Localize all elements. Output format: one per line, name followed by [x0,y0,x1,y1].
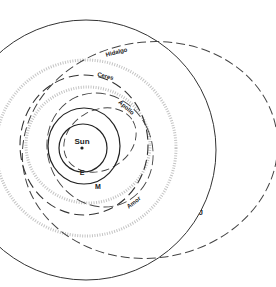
hidalgo-label: Hidalgo [105,46,128,57]
sun-icon [80,146,83,149]
jupiter-orbit [0,20,216,280]
asteroid-belt [0,60,176,236]
apollo-orbit [52,95,148,185]
orbit-canvas: Sun E M J Hidalgo Ceres Apollo Amor [0,0,276,287]
earth-label: E [80,169,85,176]
sun-label: Sun [74,137,89,146]
jupiter-label: J [199,209,203,216]
orbit-diagram: Sun E M J Hidalgo Ceres Apollo Amor [0,0,276,287]
mars-label: M [95,183,101,190]
